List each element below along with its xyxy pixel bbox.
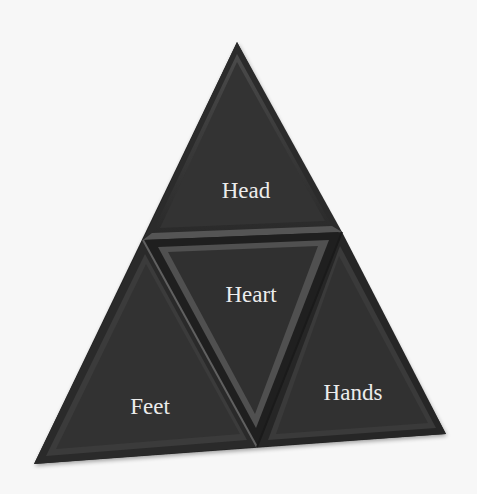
label-feet: Feet (130, 394, 170, 419)
pyramid-diagram: Head Heart Feet Hands (0, 0, 477, 494)
segment-head (143, 42, 342, 240)
label-hands: Hands (324, 380, 383, 405)
label-heart: Heart (225, 282, 277, 307)
label-head: Head (222, 178, 271, 203)
